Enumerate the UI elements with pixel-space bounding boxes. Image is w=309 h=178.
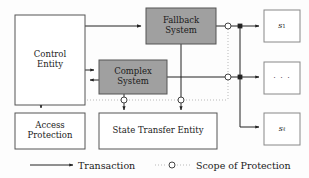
scope-marker-bus-top [225,23,231,29]
box-complex-system[interactable] [99,60,167,94]
diagram-vector-layer [0,0,309,178]
diagram-boxes [15,8,300,149]
scope-marker-bus-mid [225,74,231,80]
legend-scope-circle-icon [169,162,175,168]
box-service-dots[interactable] [264,62,300,94]
bus-junction-mid [238,75,243,80]
scope-arrow-stubs [124,102,181,110]
diagram-canvas: Control Entity Fallback System Complex S… [0,0,309,178]
box-access-protection[interactable] [15,113,85,149]
legend [30,162,191,168]
box-service-1[interactable] [264,10,300,42]
box-service-l[interactable] [264,113,300,145]
box-control-entity[interactable] [15,15,85,105]
box-state-transfer-entity[interactable] [99,113,217,149]
box-fallback-system[interactable] [146,8,216,44]
bus-junction-top [238,24,243,29]
scope-marker-complex-output [121,97,127,103]
scope-marker-fallback-output [178,97,184,103]
